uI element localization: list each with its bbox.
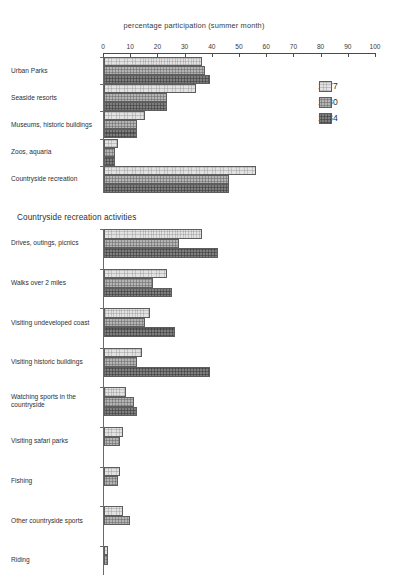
category-tick	[100, 467, 103, 468]
category-tick	[100, 348, 103, 349]
section-heading-countryside: Countryside recreation activities	[17, 213, 136, 222]
bar-group: Watching sports in the countryside	[103, 387, 375, 416]
bar-1984	[104, 367, 210, 377]
bar-1977	[104, 387, 126, 397]
x-axis-tick-label: 10	[127, 43, 134, 50]
x-axis: 0102030405060708090100	[103, 44, 375, 56]
bar-1984	[104, 248, 218, 258]
bar-1977	[104, 229, 202, 239]
bar-1977	[104, 84, 196, 93]
bar-1984	[104, 288, 172, 298]
x-axis-tick-label: 50	[235, 43, 242, 50]
bar-1980	[104, 148, 115, 157]
bar-1980	[104, 476, 118, 486]
category-tick	[100, 57, 103, 58]
bar-1977	[104, 427, 123, 437]
bar-1977	[104, 467, 120, 477]
category-tick	[100, 269, 103, 270]
bar-1977	[104, 269, 167, 279]
category-tick	[100, 84, 103, 85]
category-tick	[100, 229, 103, 230]
bar-group: Riding	[103, 546, 375, 575]
x-axis-tick-label: 80	[317, 43, 324, 50]
bar-group: Countryside recreation	[103, 166, 375, 193]
bar-1984	[104, 157, 115, 166]
category-label: Urban Parks	[11, 66, 97, 75]
bar-1977	[104, 57, 202, 66]
bar-1984	[104, 184, 229, 193]
bar-1977	[104, 139, 118, 148]
bar-1984	[104, 129, 137, 138]
category-label: Countryside recreation	[11, 175, 97, 184]
x-axis-tick-label: 60	[263, 43, 270, 50]
bar-group: Fishing	[103, 467, 375, 496]
bar-1977	[104, 166, 256, 175]
bar-group: Seaside resorts	[103, 84, 375, 111]
bar-group: Urban Parks	[103, 57, 375, 84]
bar-1980	[104, 357, 137, 367]
category-label: Visiting historic buildings	[11, 358, 97, 367]
bar-1984	[104, 75, 210, 84]
chart-axis-title: percentage participation (summer month)	[0, 21, 388, 30]
bar-1977	[104, 111, 145, 120]
bar-1980	[104, 278, 153, 288]
x-axis-tick-label: 30	[181, 43, 188, 50]
category-tick	[100, 427, 103, 428]
bar-group: Other countryside sports	[103, 506, 375, 535]
category-tick	[100, 139, 103, 140]
category-label: Drives, outings, picnics	[11, 239, 97, 248]
bar-1984	[104, 407, 137, 417]
bar-1980	[104, 397, 134, 407]
bar-group: Visiting safari parks	[103, 427, 375, 456]
category-label: Museums, historic buildings	[11, 121, 97, 130]
bar-1977	[104, 348, 142, 358]
bar-1977	[104, 546, 108, 556]
bar-1980	[104, 555, 108, 565]
category-tick	[100, 546, 103, 547]
category-label: Fishing	[11, 477, 97, 486]
category-tick	[100, 506, 103, 507]
category-label: Visiting safari parks	[11, 437, 97, 446]
category-tick	[100, 387, 103, 388]
x-axis-tick-label: 90	[344, 43, 351, 50]
bar-1980	[104, 66, 205, 75]
bar-1980	[104, 516, 130, 526]
x-axis-tick-label: 100	[369, 43, 380, 50]
chart-panel-activities: Drives, outings, picnicsWalks over 2 mil…	[103, 229, 375, 575]
x-axis-tick-label: 70	[290, 43, 297, 50]
bar-1980	[104, 93, 167, 102]
bar-group: Visiting historic buildings	[103, 348, 375, 377]
bar-1984	[104, 327, 175, 337]
category-tick	[100, 166, 103, 167]
x-axis-tick-label: 40	[208, 43, 215, 50]
bar-1984	[104, 102, 167, 111]
bar-group: Zoos, aquaria	[103, 139, 375, 166]
bar-group: Museums, historic buildings	[103, 111, 375, 138]
category-label: Seaside resorts	[11, 93, 97, 102]
bar-1977	[104, 506, 123, 516]
x-axis-tick	[375, 53, 376, 57]
category-label: Other countryside sports	[11, 516, 97, 525]
bar-1980	[104, 239, 179, 249]
category-label: Visiting undeveloped coast	[11, 318, 97, 327]
bar-group: Visiting undeveloped coast	[103, 308, 375, 337]
x-axis-tick-label: 20	[154, 43, 161, 50]
chart-panel-facilities: Urban ParksSeaside resortsMuseums, histo…	[103, 57, 375, 193]
category-label: Walks over 2 miles	[11, 279, 97, 288]
category-tick	[100, 308, 103, 309]
x-axis-tick-label: 0	[101, 43, 105, 50]
bar-1980	[104, 318, 145, 328]
bar-1980	[104, 175, 229, 184]
bar-group: Drives, outings, picnics	[103, 229, 375, 258]
category-label: Riding	[11, 556, 97, 565]
category-label: Zoos, aquaria	[11, 148, 97, 157]
category-tick	[100, 111, 103, 112]
bar-1980	[104, 120, 137, 129]
category-label: Watching sports in the countryside	[11, 393, 97, 410]
bar-group: Walks over 2 miles	[103, 269, 375, 298]
bar-1977	[104, 308, 150, 318]
bar-1980	[104, 437, 120, 447]
